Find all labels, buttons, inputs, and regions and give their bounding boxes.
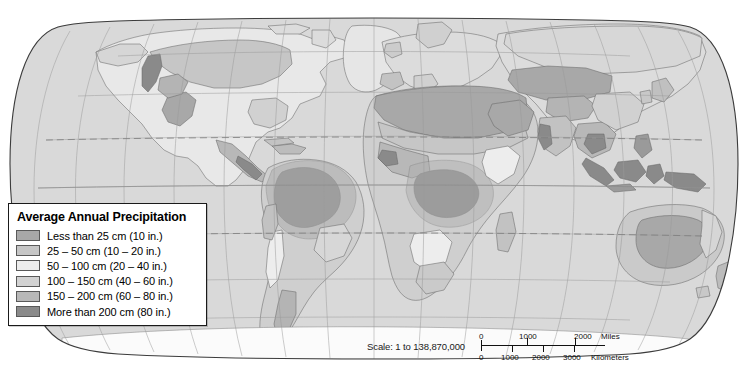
legend-label-150-200cm: 150 – 200 cm (60 – 80 in.) (47, 290, 173, 302)
legend-swatch-50-100cm (16, 260, 40, 271)
scalebar-tick-miles-1000 (527, 338, 528, 346)
scalebar-tick-km-1000 (512, 345, 513, 352)
legend-swatch-150-200cm (16, 291, 40, 302)
scalebar-tick-miles-2000 (575, 338, 576, 346)
legend-label-more-than-200cm: More than 200 cm (80 in.) (47, 306, 170, 318)
scalebar-km-tick-2000: 2000 (532, 353, 550, 362)
legend-swatch-less-than-25cm (16, 230, 40, 241)
legend-swatch-more-than-200cm (16, 306, 40, 317)
tasmania (696, 286, 710, 298)
legend-label-25-50cm: 25 – 50 cm (10 – 20 in.) (47, 245, 161, 257)
korea (640, 90, 652, 104)
legend-swatch-25-50cm (16, 245, 40, 256)
legend-item-3[interactable]: 100 – 150 cm (40 – 60 in.) (16, 274, 199, 289)
legend-label-less-than-25cm: Less than 25 cm (10 in.) (47, 230, 163, 242)
legend-swatch-100-150cm (16, 276, 40, 287)
scalebar-km-tick-3000: 3000 (563, 353, 581, 362)
scalebar-tick-km-2000 (543, 345, 544, 352)
legend-item-0[interactable]: Less than 25 cm (10 in.) (16, 228, 199, 243)
scalebar-km-tick-1000: 1000 (501, 353, 519, 362)
scalebar-km-tick-0: 0 (479, 353, 483, 362)
scale-bar: 0 1000 2000 Miles 0 1000 2000 3000 Kilom… (479, 330, 629, 364)
legend-item-5[interactable]: More than 200 cm (80 in.) (16, 304, 199, 319)
legend-item-1[interactable]: 25 – 50 cm (10 – 20 in.) (16, 243, 199, 258)
scale-ratio-label: Scale: 1 to 138,870,000 (367, 341, 465, 352)
map-screenshot: Average Annual Precipitation Less than 2… (0, 0, 747, 376)
scale-block: Scale: 1 to 138,870,000 0 1000 2000 Mile… (367, 330, 632, 364)
legend-title: Average Annual Precipitation (17, 210, 199, 224)
legend-item-2[interactable]: 50 – 100 cm (20 – 40 in.) (16, 258, 199, 273)
legend-label-50-100cm: 50 – 100 cm (20 – 40 in.) (47, 260, 167, 272)
scalebar-miles-tick-2000: 2000 (574, 332, 592, 341)
scalebar-km-unit: Kilometers (591, 353, 629, 362)
legend-item-4[interactable]: 150 – 200 cm (60 – 80 in.) (16, 289, 199, 304)
scalebar-tick-km-3000 (574, 345, 575, 352)
legend-panel: Average Annual Precipitation Less than 2… (8, 203, 207, 326)
legend-label-100-150cm: 100 – 150 cm (40 – 60 in.) (47, 275, 173, 287)
scalebar-tick-start (481, 340, 482, 351)
scalebar-miles-unit: Miles (601, 332, 620, 341)
